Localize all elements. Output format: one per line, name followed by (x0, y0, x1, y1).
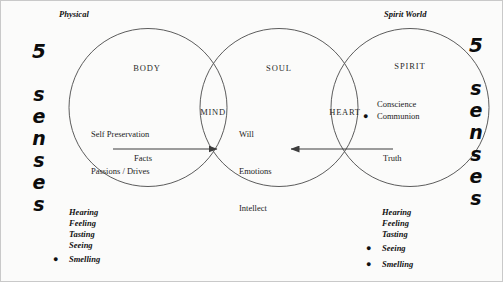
sense-item: Tasting (53, 229, 100, 240)
sense-item: ● Seeing (366, 243, 413, 254)
side-label-left-char-5: e (22, 171, 56, 193)
side-label-left-char-6: s (22, 193, 56, 215)
side-label-right-5-senses: 5 s e n s e s (459, 33, 493, 209)
sense-list-right: Hearing Feeling Tasting ● Seeing ● Smell… (366, 207, 413, 270)
sense-item: ● Smelling (53, 254, 100, 265)
sense-label: Seeing (382, 243, 406, 253)
spirit-attribute-row: Conscience (363, 99, 420, 111)
heading-physical: Physical (59, 9, 89, 19)
sense-item: ● Smelling (366, 259, 413, 270)
label-body: BODY (107, 63, 187, 73)
soul-attribute-0: Will (239, 128, 272, 140)
side-label-right-char-4: s (459, 143, 493, 165)
side-label-right-char-6: s (459, 187, 493, 209)
bullet-icon: ● (53, 254, 69, 264)
trichotomy-diagram: Physical Spirit World 5 s e n s e s 5 s … (0, 0, 503, 282)
sense-label: Smelling (382, 259, 413, 269)
side-label-left-char-4: s (22, 149, 56, 171)
side-label-left-char-0: 5 (22, 39, 56, 63)
heading-spirit-world: Spirit World (384, 9, 426, 19)
sense-label: Tasting (382, 229, 408, 239)
side-label-left-char-3: n (22, 127, 56, 149)
sense-label: Feeling (69, 218, 96, 228)
sense-list-left: Hearing Feeling Tasting Seeing ● Smellin… (53, 207, 100, 265)
bullet-icon: ● (366, 243, 382, 253)
label-facts: Facts (134, 153, 152, 163)
sense-item: Seeing (53, 240, 100, 251)
spirit-attributes: Conscience ● Communion (363, 99, 420, 123)
sense-label: Hearing (382, 207, 411, 217)
side-label-left-char-2: e (22, 105, 56, 127)
spirit-attribute-row: ● Communion (363, 111, 420, 123)
body-attribute-0: Self Preservation (91, 128, 150, 140)
sense-label: Tasting (69, 229, 95, 239)
side-label-left-char-1: s (22, 83, 56, 105)
sense-label: Hearing (69, 207, 98, 217)
soul-attribute-1: Emotions (239, 165, 272, 177)
label-heart: HEART (319, 107, 371, 117)
soul-attribute-2: Intellect (239, 202, 272, 214)
label-mind: MIND (189, 107, 237, 117)
spirit-attribute-1: Communion (377, 111, 420, 121)
side-label-right-char-5: e (459, 165, 493, 187)
side-label-right-char-1: s (459, 77, 493, 99)
side-label-left-5-senses: 5 s e n s e s (22, 39, 56, 215)
sense-label: Seeing (69, 240, 93, 250)
sense-item: Feeling (366, 218, 413, 229)
sense-label: Feeling (382, 218, 409, 228)
label-soul: SOUL (239, 63, 319, 73)
spirit-attribute-0: Conscience (377, 99, 416, 109)
bullet-icon: ● (366, 259, 382, 269)
side-label-right-char-2: e (459, 99, 493, 121)
sense-item: Hearing (366, 207, 413, 218)
sense-item: Tasting (366, 229, 413, 240)
side-label-right-char-3: n (459, 121, 493, 143)
label-spirit: SPIRIT (370, 61, 450, 71)
sense-item: Feeling (53, 218, 100, 229)
body-attribute-1: Passions / Drives (91, 165, 150, 177)
label-truth: Truth (383, 153, 402, 163)
sense-label: Smelling (69, 254, 100, 264)
sense-item: Hearing (53, 207, 100, 218)
soul-attributes: Will Emotions Intellect (239, 103, 272, 238)
side-label-right-char-0: 5 (459, 33, 493, 57)
